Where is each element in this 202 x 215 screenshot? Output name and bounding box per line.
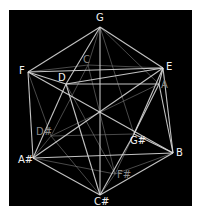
edge-a-ds	[51, 84, 159, 136]
vertex-label-ds: D#	[36, 127, 52, 137]
icosahedron-diagram	[0, 0, 202, 215]
edge-c-fs	[88, 65, 115, 174]
vertex-label-a: A	[161, 80, 168, 90]
vertex-label-f: F	[19, 66, 25, 76]
vertex-label-e: E	[166, 62, 172, 72]
edge-fs-as	[33, 158, 115, 174]
vertex-label-c: C	[83, 55, 90, 65]
edge-g-e	[100, 27, 163, 68]
vertex-label-gs: G#	[130, 136, 146, 146]
edge-d-cs	[66, 84, 100, 195]
edge-a-gs	[134, 84, 159, 134]
vertex-label-cs: C#	[94, 197, 109, 207]
edge-ds-cs	[51, 136, 100, 195]
vertex-label-fs: F#	[117, 170, 131, 180]
vertex-label-b: B	[176, 148, 183, 158]
vertex-label-as: A#	[18, 155, 33, 165]
vertex-label-g: G	[96, 13, 104, 23]
edge-e-c	[88, 65, 163, 68]
edge-c-ds	[51, 65, 88, 136]
edge-as-b	[33, 153, 173, 158]
edge-ds-gs	[51, 134, 134, 136]
vertex-label-d: D	[58, 73, 66, 83]
